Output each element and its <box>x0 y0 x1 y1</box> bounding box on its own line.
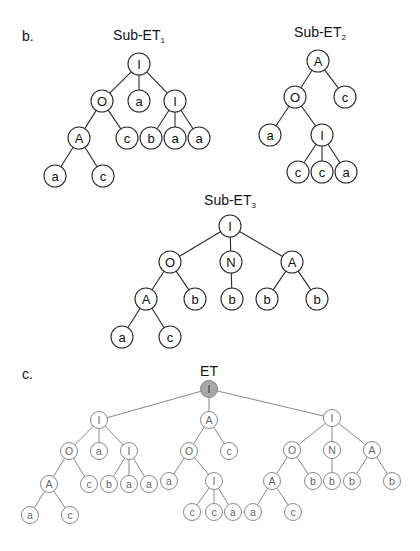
node-label: A <box>142 292 151 307</box>
node-label: A <box>45 478 52 490</box>
tree-node-N: N <box>220 251 242 273</box>
node-label: I <box>331 412 334 424</box>
node-label: O <box>97 94 107 109</box>
node-label: b <box>310 475 316 487</box>
tree-node-a: a <box>259 124 281 146</box>
node-label: A <box>268 475 275 487</box>
tree-node-I: I <box>128 53 150 75</box>
tree-node-a: a <box>44 165 66 187</box>
tree-edge <box>105 426 123 445</box>
tree-edge <box>277 488 288 505</box>
tree-edge <box>298 271 311 290</box>
tree-title-sub-et-1: Sub-ET1 <box>113 27 165 45</box>
tree-edge <box>325 70 339 88</box>
tree-edge <box>240 232 283 257</box>
node-label: a <box>195 131 203 146</box>
tree-node-b: b <box>305 473 322 490</box>
node-label: I <box>128 445 131 457</box>
tree-edge <box>110 72 131 93</box>
node-label: a <box>126 478 132 490</box>
tree-node-A: A <box>281 251 303 273</box>
tree-node-A: A <box>135 288 157 310</box>
node-label: A <box>75 131 84 146</box>
tree-edge <box>197 488 209 505</box>
tree-node-I: I <box>201 381 218 398</box>
tree-sub_et_2: AOcaIcca <box>259 50 357 183</box>
tree-node-c: c <box>62 507 79 524</box>
tree-edge <box>34 491 44 508</box>
tree-node-c: c <box>206 504 223 521</box>
tree-node-N: N <box>324 442 341 459</box>
node-label: c <box>290 506 295 518</box>
tree-node-a: a <box>121 476 138 493</box>
node-label: N <box>226 255 235 270</box>
node-label: N <box>328 444 336 456</box>
tree-edge <box>181 110 193 129</box>
tree-node-O: O <box>284 86 306 108</box>
tree-edge <box>299 423 326 444</box>
tree-node-O: O <box>91 90 113 112</box>
node-label: a <box>118 330 126 345</box>
tree-edge <box>85 110 96 128</box>
tree-edge <box>257 488 267 505</box>
tree-node-b: b <box>344 473 361 490</box>
node-label: O <box>290 90 300 105</box>
tree-edge <box>339 423 366 444</box>
tree-node-O: O <box>159 251 181 273</box>
tree-node-a: a <box>128 90 150 112</box>
node-label: A <box>314 54 323 69</box>
tree-edge <box>217 391 323 416</box>
tree-node-c: c <box>184 504 201 521</box>
tree-node-b: b <box>221 288 243 310</box>
tree-node-I: I <box>324 410 341 427</box>
tree-node-A: A <box>307 50 329 72</box>
node-label: O <box>185 445 193 457</box>
node-label: c <box>211 506 216 518</box>
tree-edge <box>61 147 73 166</box>
tree-node-a: a <box>335 161 357 183</box>
node-label: c <box>124 131 131 146</box>
node-label: c <box>67 509 72 521</box>
node-label: b <box>191 292 198 307</box>
tree-node-b: b <box>101 476 118 493</box>
tree-node-a: a <box>225 504 242 521</box>
tree-node-a: a <box>245 504 262 521</box>
tree-node-a: a <box>161 473 178 490</box>
node-label: A <box>368 444 375 456</box>
tree-node-c: c <box>81 476 98 493</box>
panel-label-b: b. <box>22 28 34 44</box>
node-label: I <box>228 219 232 234</box>
node-label: c <box>167 330 174 345</box>
tree-node-b: b <box>306 288 328 310</box>
tree-node-b: b <box>256 288 278 310</box>
tree-node-c: c <box>311 161 333 183</box>
node-label: b <box>228 292 235 307</box>
panel-label-c: c. <box>22 366 33 382</box>
node-label: I <box>137 57 141 72</box>
node-label: a <box>146 478 152 490</box>
tree-node-A: A <box>68 127 90 149</box>
node-label: c <box>226 445 231 457</box>
tree-node-A: A <box>364 442 381 459</box>
node-label: a <box>166 475 172 487</box>
node-label: a <box>266 128 274 143</box>
tree-edge <box>54 491 65 508</box>
node-label: b <box>147 131 154 146</box>
tree-node-c: c <box>221 443 238 460</box>
tree-edge <box>218 488 228 505</box>
tree-edge <box>108 110 121 129</box>
node-label: O <box>65 445 73 457</box>
tree-node-a: a <box>22 507 39 524</box>
node-label: c <box>295 165 302 180</box>
node-label: A <box>205 414 212 426</box>
node-label: a <box>342 165 350 180</box>
tree-node-I: I <box>121 443 138 460</box>
node-label: b <box>349 475 355 487</box>
tree-edge <box>147 72 168 93</box>
tree-node-b: b <box>184 288 206 310</box>
node-label: c <box>86 478 91 490</box>
node-label: c <box>319 165 326 180</box>
tree-edge <box>194 458 208 475</box>
tree-edge <box>301 106 315 126</box>
node-label: O <box>288 444 296 456</box>
